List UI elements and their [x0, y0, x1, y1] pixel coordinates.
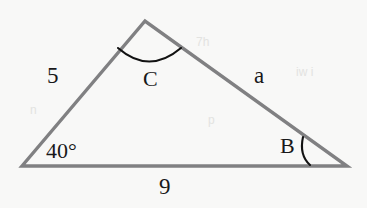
angle-label-right: B: [280, 135, 295, 157]
angle-arc-c: [118, 48, 181, 62]
triangle-svg: [0, 0, 367, 208]
triangle-figure: 7h iw i p n 5 a 9 40° B C: [0, 0, 367, 208]
side-label-bottom: 9: [159, 175, 171, 198]
side-label-right: a: [254, 64, 264, 87]
side-label-left: 5: [47, 64, 59, 87]
angle-label-left: 40°: [46, 140, 77, 162]
angle-arc-b: [302, 137, 310, 165]
angle-label-top: C: [143, 68, 158, 90]
